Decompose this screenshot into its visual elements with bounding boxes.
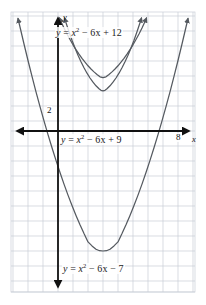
eq-top-constant-term: + 12	[103, 27, 122, 38]
parabola-graph-figure: y x 2 8 y = x2 − 6x + 12 y = x2 − 6x + 9…	[0, 0, 206, 305]
y-axis-tick-label-2: 2	[47, 106, 52, 115]
eq-mid-equals: =	[68, 134, 74, 145]
y-axis-label: y	[63, 12, 67, 22]
eq-mid-middle-term: − 6x	[87, 134, 106, 145]
x-axis-tick-label-8: 8	[176, 133, 181, 142]
equation-label-middle: y = x2 − 6x + 9	[60, 134, 123, 145]
eq-bot-equals: =	[70, 263, 76, 274]
eq-bot-exponent: 2	[83, 262, 86, 269]
eq-top-middle-term: − 6x	[82, 27, 101, 38]
eq-mid-constant-term: + 9	[108, 134, 121, 145]
eq-mid-exponent: 2	[81, 133, 84, 140]
x-axis-label: x	[192, 134, 196, 144]
graph-canvas	[0, 0, 206, 305]
eq-mid-lhs: y	[61, 134, 66, 145]
eq-top-lhs: y	[56, 27, 61, 38]
eq-bot-middle-term: − 6x	[89, 263, 108, 274]
equation-label-top: y = x2 − 6x + 12	[55, 27, 123, 38]
eq-bot-lhs: y	[63, 263, 68, 274]
equation-label-bottom: y = x2 − 6x − 7	[62, 263, 125, 274]
eq-bot-constant-term: − 7	[110, 263, 123, 274]
eq-top-equals: =	[63, 27, 69, 38]
eq-top-exponent: 2	[76, 26, 79, 33]
grid-lines	[11, 12, 195, 292]
